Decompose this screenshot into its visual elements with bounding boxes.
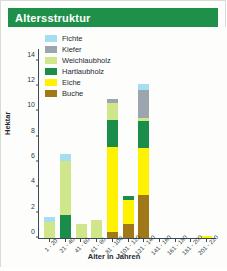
x-axis-title: Alter in Jahren bbox=[1, 252, 227, 261]
chart-legend: FichteKieferWeichlaubholzHartlaubholzEic… bbox=[45, 33, 111, 98]
legend-color-swatch bbox=[45, 57, 57, 64]
bar-slot bbox=[151, 49, 167, 238]
legend-color-swatch bbox=[45, 68, 57, 75]
bar-segment-hartlaubholz bbox=[107, 120, 118, 147]
legend-item-label: Hartlaubholz bbox=[62, 67, 104, 76]
stacked-bar[interactable] bbox=[60, 154, 71, 238]
bar-segment-weichlaubholz bbox=[91, 220, 102, 238]
legend-item[interactable]: Eiche bbox=[45, 77, 111, 87]
legend-item[interactable]: Buche bbox=[45, 88, 111, 98]
y-axis-tick-label: 14 bbox=[27, 50, 39, 57]
stacked-bar[interactable] bbox=[107, 99, 118, 238]
y-axis-tick-label: 6 bbox=[31, 152, 39, 159]
bar-segment-hartlaubholz bbox=[60, 215, 71, 238]
bar-segment-weichlaubholz bbox=[107, 103, 118, 121]
legend-color-swatch bbox=[45, 79, 57, 86]
legend-color-swatch bbox=[45, 46, 57, 53]
legend-item-label: Weichlaubholz bbox=[62, 56, 111, 65]
legend-color-swatch bbox=[45, 90, 57, 97]
bar-segment-eiche bbox=[138, 148, 149, 195]
stacked-bar[interactable] bbox=[76, 224, 87, 238]
page-title: Altersstruktur bbox=[8, 12, 91, 24]
bar-segment-buche bbox=[138, 195, 149, 238]
bar-segment-eiche bbox=[107, 147, 118, 232]
stacked-bar[interactable] bbox=[138, 84, 149, 239]
legend-item[interactable]: Fichte bbox=[45, 33, 111, 43]
y-axis-tick-label: 12 bbox=[27, 76, 39, 83]
legend-item[interactable]: Weichlaubholz bbox=[45, 55, 111, 65]
y-axis-tick-label: 2 bbox=[31, 202, 39, 209]
legend-item[interactable]: Kiefer bbox=[45, 44, 111, 54]
y-axis-tick-label: 0 bbox=[31, 228, 39, 235]
y-axis-tick-label: 4 bbox=[31, 177, 39, 184]
legend-item-label: Eiche bbox=[62, 78, 81, 87]
chart-area: Hektar 02468101214 1 - 2021 - 4041 - 606… bbox=[1, 27, 227, 268]
bar-slot bbox=[198, 49, 214, 238]
legend-item[interactable]: Hartlaubholz bbox=[45, 66, 111, 76]
bar-segment-hartlaubholz bbox=[138, 121, 149, 148]
bar-slot bbox=[183, 49, 199, 238]
bar-segment-weichlaubholz bbox=[60, 161, 71, 215]
legend-color-swatch bbox=[45, 35, 57, 42]
bar-slot bbox=[136, 49, 152, 238]
card-header-banner: Altersstruktur bbox=[8, 8, 218, 27]
y-axis-tick-label: 10 bbox=[27, 101, 39, 108]
bar-slot bbox=[167, 49, 183, 238]
stacked-bar[interactable] bbox=[123, 196, 134, 238]
legend-item-label: Kiefer bbox=[62, 45, 82, 54]
legend-item-label: Fichte bbox=[62, 34, 82, 43]
stacked-bar[interactable] bbox=[44, 217, 55, 238]
bar-segment-kiefer bbox=[138, 90, 149, 118]
stacked-bar[interactable] bbox=[91, 220, 102, 238]
legend-item-label: Buche bbox=[62, 89, 83, 98]
bar-segment-weichlaubholz bbox=[76, 224, 87, 238]
bar-slot bbox=[120, 49, 136, 238]
bar-segment-eiche bbox=[123, 200, 134, 224]
bar-segment-weichlaubholz bbox=[44, 222, 55, 238]
y-axis-title: Hektar bbox=[3, 112, 12, 135]
y-axis-tick-label: 8 bbox=[31, 126, 39, 133]
bar-segment-buche bbox=[123, 224, 134, 238]
